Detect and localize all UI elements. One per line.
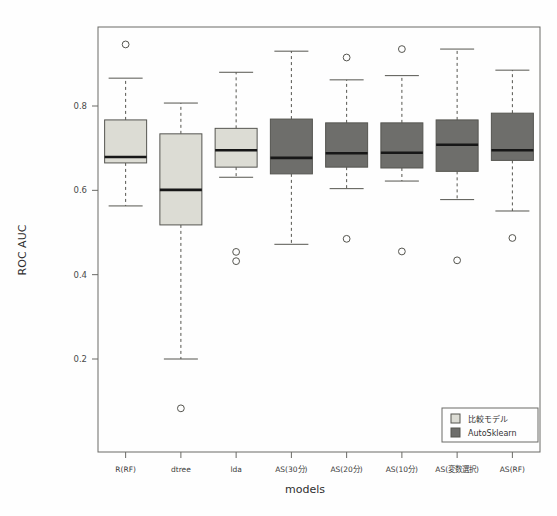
box-rect [491,113,533,160]
legend-label-0: 比較モデル [468,414,508,424]
x-axis-title: models [285,483,325,496]
boxplot-figure: 0.20.40.60.8 R(RF)dtreeldaAS(30分)AS(20分)… [0,0,557,516]
x-tick-label: AS(20分) [330,465,362,474]
x-tick-label: lda [230,465,241,474]
x-tick-label: dtree [171,465,191,474]
x-tick-label: AS(10分) [386,465,418,474]
y-tick-label: 0.6 [73,185,87,195]
legend-swatch-1[interactable] [451,428,460,437]
box-rect [215,128,257,167]
x-tick-label: AS(30分) [275,465,307,474]
legend-swatch-0[interactable] [451,414,460,423]
y-tick-label: 0.8 [73,101,87,111]
y-axis-title: ROC AUC [16,224,29,275]
x-tick-label: R(RF) [115,465,136,474]
box-rect [160,134,202,225]
box-rect [381,123,423,168]
legend[interactable]: 比較モデルAutoSklearn [442,408,538,442]
legend-label-1: AutoSklearn [468,429,517,438]
y-tick-label: 0.4 [73,270,87,280]
box-rect [270,119,312,174]
box-rect [326,123,368,167]
y-tick-label: 0.2 [73,354,87,364]
x-tick-label: AS(変数選択) [435,464,479,474]
plot-canvas: 0.20.40.60.8 R(RF)dtreeldaAS(30分)AS(20分)… [0,0,557,516]
x-tick-label: AS(RF) [500,465,525,474]
